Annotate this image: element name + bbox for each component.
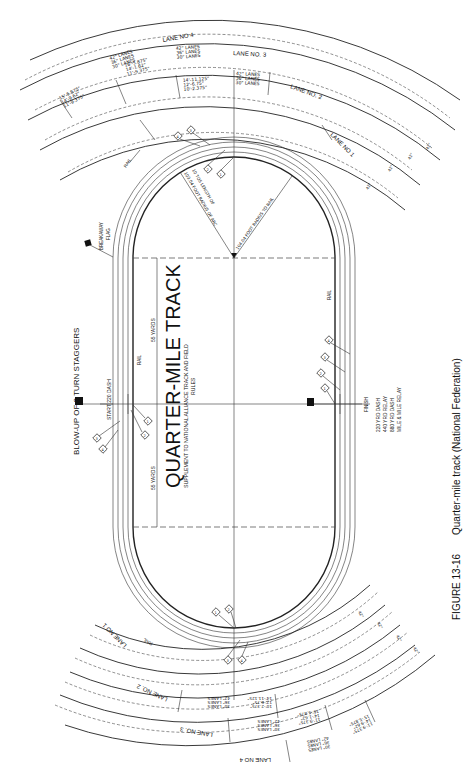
svg-text:220 YRD DASH: 220 YRD DASH xyxy=(376,397,381,432)
svg-text:1: 1 xyxy=(324,387,326,391)
svg-text:42": 42" xyxy=(357,610,365,619)
svg-text:2: 2 xyxy=(320,372,322,376)
radius-rail-label: 104.04 FOOT RADIUS TO RAIL xyxy=(235,196,275,250)
svg-text:42" LANES: 42" LANES xyxy=(257,719,280,724)
yards-bottom: 55 YARDS xyxy=(150,466,156,490)
svg-text:3: 3 xyxy=(324,356,326,360)
figure-caption: Quarter-mile track (National Federation) xyxy=(451,358,462,535)
bottom-lane-2-label: LANE NO. 2 xyxy=(135,683,168,703)
svg-text:3: 3 xyxy=(96,437,98,441)
svg-text:1: 1 xyxy=(147,420,149,424)
svg-text:2: 2 xyxy=(144,434,146,438)
svg-text:30" LANES: 30" LANES xyxy=(235,80,259,86)
svg-text:42": 42" xyxy=(395,634,403,643)
finish-label: FINISH xyxy=(364,397,369,412)
start-label: START 220 DASH xyxy=(106,379,112,420)
svg-text:440 YRD RELAY: 440 YRD RELAY xyxy=(383,395,388,432)
subtitle: SUPPLEMENT TO NATIONAL ALLIANCE TRACK AN… xyxy=(183,344,189,488)
svg-text:10'-2.375": 10'-2.375" xyxy=(183,85,207,92)
svg-text:RAIL: RAIL xyxy=(142,637,154,647)
figure-number: FIGURE 13-16 xyxy=(451,553,462,620)
svg-text:42" LANES: 42" LANES xyxy=(207,696,230,701)
svg-text:RAIL: RAIL xyxy=(123,157,133,168)
svg-text:42": 42" xyxy=(412,646,420,655)
bottom-lane-4-label: LANE NO 4 xyxy=(239,757,271,763)
breakaway-flag: BREAKAWAY FLAG xyxy=(84,222,113,257)
svg-text:2: 2 xyxy=(228,608,230,612)
quarter-mile-track-diagram: 14'-11.125" 12'-6.75" 10'-2.375" 42" LAN… xyxy=(0,0,470,771)
top-lane-3-label: LANE NO. 3 xyxy=(233,50,267,58)
yards-top: 55 YARDS xyxy=(150,318,156,342)
bottom-stagger-blowup: 30" LANES 36" LANES 42" LANES 10'-2.375"… xyxy=(55,585,435,763)
svg-text:RAIL: RAIL xyxy=(137,354,142,365)
start-flag xyxy=(75,397,83,405)
svg-text:BREAKAWAY: BREAKAWAY xyxy=(99,222,104,250)
svg-text:30" LANES: 30" LANES xyxy=(176,53,200,60)
page-title: QUARTER-MILE TRACK xyxy=(162,264,184,488)
svg-text:RULES: RULES xyxy=(190,377,196,395)
top-lane-4-label: LANE NO 4 xyxy=(162,32,195,43)
bottom-lane-3-label: LANE NO. 3 xyxy=(179,726,213,738)
top-lane-1-label: LANE NO 1 xyxy=(329,131,356,158)
svg-text:42": 42" xyxy=(425,142,433,151)
finish-flag xyxy=(307,398,314,406)
top-stagger-blowup: 14'-11.125" 12'-6.75" 10'-2.375" 42" LAN… xyxy=(20,20,460,210)
svg-text:42": 42" xyxy=(376,621,384,630)
svg-text:3: 3 xyxy=(190,129,192,133)
blowup-header: BLOW-UP OF 2 TURN STAGGERS xyxy=(72,328,81,455)
svg-text:14'-11.125": 14'-11.125" xyxy=(247,696,272,701)
svg-text:MILE & MILE RELAY: MILE & MILE RELAY xyxy=(397,386,402,432)
finish-events: 220 YRD DASH 440 YRD RELAY 880 YRD DASH … xyxy=(376,386,402,432)
svg-text:1: 1 xyxy=(220,173,222,177)
svg-text:3: 3 xyxy=(227,659,229,663)
svg-text:1: 1 xyxy=(215,611,217,615)
start-markers: 3 4 1 2 xyxy=(93,405,152,453)
bottom-curve-markers: 1 2 3 4 xyxy=(212,605,248,664)
bottom-lane-1-label: LANE NO 1 xyxy=(101,622,128,649)
svg-text:42": 42" xyxy=(365,182,373,191)
svg-text:RAIL: RAIL xyxy=(327,289,332,300)
svg-text:880 YRD DASH: 880 YRD DASH xyxy=(390,397,395,432)
svg-text:42": 42" xyxy=(407,152,415,161)
svg-text:FLAG: FLAG xyxy=(106,228,111,240)
svg-text:2: 2 xyxy=(207,168,209,172)
